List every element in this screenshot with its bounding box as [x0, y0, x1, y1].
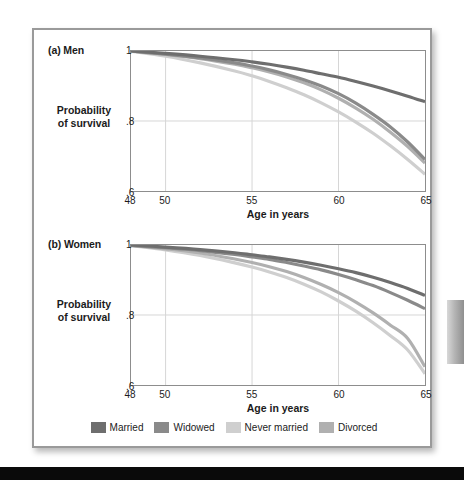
legend-item-widowed[interactable]: Widowed [154, 422, 214, 433]
chart-svg-men [131, 51, 425, 191]
chart-svg-women [131, 245, 425, 385]
panel-men-label: (a) Men [48, 44, 84, 56]
x-tick-label: 48 [124, 389, 135, 400]
x-tick-label: 50 [159, 389, 170, 400]
series-line-never-married [131, 51, 425, 174]
y-axis-label-line1: Probability [42, 104, 126, 117]
legend-swatch-icon [319, 422, 334, 433]
series-line-widowed [131, 51, 425, 160]
x-tick-label: 50 [159, 195, 170, 206]
figure-card: (a) Men Probability of survival Age in y… [32, 28, 432, 448]
legend-label: Divorced [338, 422, 377, 433]
x-tick-label: 48 [124, 195, 135, 206]
series-line-never-married [131, 246, 425, 374]
plot-area-men [130, 50, 426, 192]
series-line-divorced [131, 245, 425, 366]
legend-label: Widowed [173, 422, 214, 433]
legend-item-divorced[interactable]: Divorced [319, 422, 377, 433]
legend-swatch-icon [154, 422, 169, 433]
x-tick-label: 55 [246, 389, 257, 400]
series-line-divorced [131, 51, 425, 163]
y-axis-label-women: Probability of survival [42, 298, 126, 324]
y-axis-label-line2: of survival [42, 117, 126, 130]
x-axis-title-men: Age in years [130, 208, 426, 220]
x-tick-label: 60 [333, 195, 344, 206]
x-tick-label: 55 [246, 195, 257, 206]
legend-label: Never married [245, 422, 308, 433]
legend-item-married[interactable]: Married [91, 422, 144, 433]
y-axis-label-men: Probability of survival [42, 104, 126, 130]
plot-area-women [130, 244, 426, 386]
chart-legend: MarriedWidowedNever marriedDivorced [34, 422, 434, 433]
panel-women: (b) Women Probability of survival Age in… [34, 230, 434, 426]
x-axis-title-women: Age in years [130, 402, 426, 414]
series-line-widowed [131, 245, 425, 308]
y-axis-label-line1: Probability [42, 298, 126, 311]
panel-men: (a) Men Probability of survival Age in y… [34, 36, 434, 232]
legend-swatch-icon [91, 422, 106, 433]
legend-label: Married [110, 422, 144, 433]
x-tick-label: 65 [420, 195, 431, 206]
panel-women-label: (b) Women [48, 238, 101, 250]
x-tick-label: 60 [333, 389, 344, 400]
page-edge-artifact [447, 300, 464, 364]
bottom-bar [0, 467, 464, 480]
legend-swatch-icon [226, 422, 241, 433]
x-tick-label: 65 [420, 389, 431, 400]
legend-item-never-married[interactable]: Never married [226, 422, 308, 433]
y-axis-label-line2: of survival [42, 311, 126, 324]
